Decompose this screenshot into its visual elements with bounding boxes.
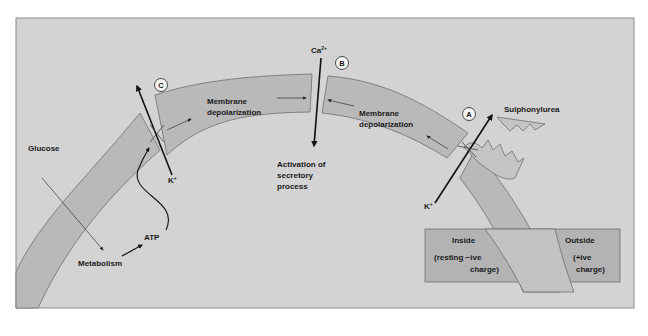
svg-text:B: B [339,59,345,68]
marker-c: C [155,79,168,92]
legend-inside-title: Inside [452,236,476,245]
metabolism-label: Metabolism [78,259,122,268]
activation-line3: process [277,182,308,191]
legend-inside-line2: charge) [470,265,499,274]
svg-text:A: A [466,110,472,119]
membrane-depolarization-right-line1: Membrane [359,109,400,118]
membrane-depolarization-right-line2: depolarization [359,120,413,129]
membrane-depolarization-left-line1: Membrane [207,97,248,106]
atp-label: ATP [144,233,160,242]
membrane-depolarization-left-line2: depolarization [207,108,261,117]
glucose-label: Glucose [28,144,60,153]
legend-outside-title: Outside [565,236,595,245]
legend-outside-line2: charge) [576,265,605,274]
svg-text:C: C [158,81,164,90]
activation-line1: Activation of [277,160,326,169]
beta-cell-insulin-secretion-diagram: Inside (resting −ive charge) Outside (+i… [0,0,648,336]
marker-b: B [336,57,349,70]
activation-line2: secretory [277,171,314,180]
legend-outside-line1: (+ive [573,253,592,262]
marker-a: A [463,108,476,121]
legend-inside-line1: (resting −ive [434,253,482,262]
sulphonylurea-label: Sulphonylurea [504,105,560,114]
